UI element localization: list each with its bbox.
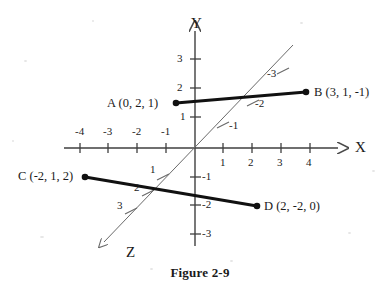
x-axis-label: X: [355, 140, 366, 155]
paper-speck: [150, 268, 153, 270]
paper-speck: [12, 140, 14, 142]
z-tick-label--2: -2: [255, 98, 264, 109]
paper-speck: [40, 236, 44, 238]
x-tick-label-1: 1: [220, 157, 226, 168]
paper-speck: [348, 232, 351, 234]
x-tick-label--2: -2: [132, 126, 141, 137]
coordinate-axes-diagram: [0, 0, 387, 289]
figure-2-9: X Y Z -4-3-2-11234321-1-2-3123-1-2-3A (0…: [0, 0, 387, 289]
point-label-D: D (2, -2, 0): [264, 200, 320, 213]
z-tick-3: [125, 208, 137, 214]
figure-caption: Figure 2-9: [170, 266, 229, 279]
point-label-A: A (0, 2, 1): [107, 97, 158, 110]
y-tick-label-2: 2: [177, 82, 183, 93]
z-tick-label-3: 3: [117, 200, 123, 211]
z-tick-label--1: -1: [229, 120, 238, 131]
paper-speck: [24, 60, 27, 62]
y-tick-label--3: -3: [202, 228, 211, 239]
y-tick-label--1: -1: [202, 171, 211, 182]
segment-CD: [85, 177, 257, 206]
x-tick-label-3: 3: [277, 157, 283, 168]
paper-speck: [372, 170, 375, 172]
point-dot-A: [173, 100, 180, 107]
y-axis-label: Y: [191, 16, 202, 31]
y-axis-group: [190, 31, 201, 246]
x-axis-group: [64, 143, 338, 153]
x-tick-label-4: 4: [306, 157, 312, 168]
y-tick-label-1: 1: [180, 111, 186, 122]
point-dot-C: [82, 174, 89, 181]
z-tick-2: [142, 190, 154, 196]
x-tick-label--1: -1: [161, 126, 170, 137]
paper-speck: [366, 96, 369, 98]
x-tick-label-2: 2: [248, 157, 254, 168]
z-tick-label-2: 2: [134, 182, 140, 193]
paper-speck: [230, 260, 233, 262]
z-tick-1: [157, 174, 169, 180]
z-tick--3: [277, 68, 289, 74]
point-dot-D: [254, 203, 261, 210]
paper-speck: [92, 20, 94, 22]
y-tick-label--2: -2: [202, 199, 211, 210]
paper-speck: [300, 22, 303, 24]
z-tick-label-1: 1: [150, 164, 156, 175]
z-tick-label--3: -3: [267, 68, 276, 79]
point-label-C: C (-2, 1, 2): [18, 170, 73, 183]
z-axis-label: Z: [126, 245, 135, 260]
x-tick-label--3: -3: [103, 126, 112, 137]
x-tick-label--4: -4: [75, 126, 84, 137]
point-label-B: B (3, 1, -1): [314, 86, 369, 99]
y-tick-label-3: 3: [177, 53, 183, 64]
point-dot-B: [303, 89, 310, 96]
z-axis-ticks: [125, 68, 289, 214]
